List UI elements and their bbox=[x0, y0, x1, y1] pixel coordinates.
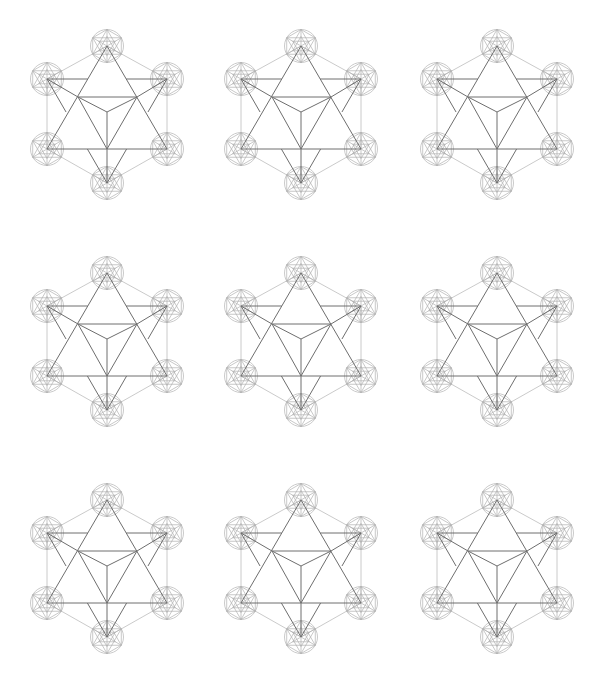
metatron-figure-2 bbox=[225, 30, 378, 200]
metatron-figure-8 bbox=[225, 484, 378, 654]
star-tetrahedron bbox=[437, 500, 557, 637]
star-tetrahedron bbox=[47, 500, 167, 637]
metatron-figure-7 bbox=[31, 484, 184, 654]
star-tetrahedron bbox=[437, 273, 557, 410]
star-tetrahedron bbox=[241, 46, 361, 183]
metatron-figure-6 bbox=[421, 257, 574, 427]
metatron-figure-5 bbox=[225, 257, 378, 427]
metatron-figure-3 bbox=[421, 30, 574, 200]
star-tetrahedron bbox=[47, 273, 167, 410]
metatron-figure-4 bbox=[31, 257, 184, 427]
metatron-figure-1 bbox=[31, 30, 184, 200]
star-tetrahedron bbox=[47, 46, 167, 183]
figure-grid bbox=[0, 0, 592, 689]
diagram-canvas bbox=[0, 0, 592, 689]
star-tetrahedron bbox=[437, 46, 557, 183]
star-tetrahedron bbox=[241, 500, 361, 637]
metatron-figure-9 bbox=[421, 484, 574, 654]
star-tetrahedron bbox=[241, 273, 361, 410]
